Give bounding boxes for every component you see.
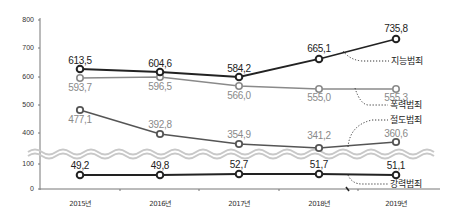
data-label: 477,1 bbox=[68, 114, 92, 125]
data-label: 49,8 bbox=[151, 160, 170, 171]
data-label: 613,5 bbox=[68, 55, 92, 66]
data-label: 392,8 bbox=[148, 119, 172, 130]
data-label: 665,1 bbox=[307, 43, 331, 54]
data-label: 593,7 bbox=[68, 82, 92, 93]
series-theft-crime: 477,1 392,8 354,9 341,2 360,6 bbox=[68, 107, 408, 151]
y-tick-100: 100 bbox=[22, 160, 34, 167]
data-label: 596,5 bbox=[148, 81, 172, 92]
data-label: 341,2 bbox=[307, 130, 331, 141]
y-tick-600: 600 bbox=[22, 73, 34, 80]
legend: 지능범죄 폭력범죄 절도범죄 강력범죄 bbox=[343, 51, 423, 191]
y-tick-400: 400 bbox=[22, 129, 34, 136]
legend-label-felony: 강력범죄 bbox=[390, 178, 422, 189]
data-label: 52,7 bbox=[230, 159, 249, 170]
legend-label-theft: 절도범죄 bbox=[390, 114, 422, 125]
x-tick-2019: 2019년 bbox=[385, 199, 407, 208]
data-label: 360,6 bbox=[384, 128, 408, 139]
data-label: 51,7 bbox=[310, 159, 329, 170]
data-label: 49,2 bbox=[71, 160, 90, 171]
y-tick-700: 700 bbox=[22, 44, 34, 51]
legend-label-violent: 폭력범죄 bbox=[390, 99, 422, 110]
y-tick-500: 500 bbox=[22, 101, 34, 108]
x-tick-2016: 2016년 bbox=[149, 199, 171, 208]
data-label: 604,6 bbox=[148, 58, 172, 69]
x-tick-2015: 2015년 bbox=[69, 199, 91, 208]
legend-label-intellectual: 지능범죄 bbox=[391, 56, 423, 66]
x-tick-2018: 2018년 bbox=[308, 199, 330, 208]
series-violent-felony: 49,2 49,8 52,7 51,7 51,1 bbox=[71, 159, 406, 178]
data-label: 555,0 bbox=[307, 92, 331, 103]
x-tick-2017: 2017년 bbox=[228, 199, 250, 208]
data-label: 354,9 bbox=[227, 129, 251, 140]
series-intellectual-crime: 613,5 604,6 584,2 665,1 735,8 bbox=[68, 23, 408, 80]
line-chart: 800 700 600 500 400 100 0 2015년 2016년 20… bbox=[0, 0, 462, 222]
y-tick-0: 0 bbox=[30, 185, 34, 192]
y-tick-800: 800 bbox=[22, 16, 34, 23]
y-axis: 800 700 600 500 400 100 0 bbox=[22, 16, 40, 192]
x-axis: 2015년 2016년 2017년 2018년 2019년 bbox=[40, 189, 440, 208]
data-label: 584,2 bbox=[227, 63, 251, 74]
data-label: 735,8 bbox=[384, 23, 408, 34]
data-label: 51,1 bbox=[387, 160, 406, 171]
data-label: 566,0 bbox=[227, 90, 251, 101]
axis-break bbox=[28, 150, 434, 159]
